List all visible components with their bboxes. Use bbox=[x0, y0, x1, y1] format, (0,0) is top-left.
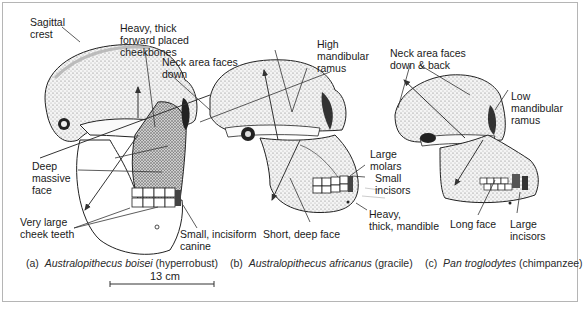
caption-b-descriptor: (gracile) bbox=[375, 257, 413, 269]
label-cheekbones: Heavy, thick forward placed cheekbones bbox=[120, 22, 189, 58]
label-sagittal-crest: Sagittal crest bbox=[30, 16, 65, 40]
caption-a: (a) Australopithecus boisei (hyperrobust… bbox=[26, 257, 218, 269]
caption-a-prefix: (a) bbox=[26, 257, 39, 269]
label-deep-massive-face: Deep massive face bbox=[32, 160, 71, 196]
label-short-deep-face: Short, deep face bbox=[263, 228, 340, 240]
caption-c: (c) Pan troglodytes (chimpanzee) bbox=[425, 257, 583, 269]
label-large-incisors: Large incisors bbox=[510, 218, 546, 242]
caption-c-descriptor: (chimpanzee) bbox=[519, 257, 583, 269]
label-high-mandibular-ramus: High mandibular ramus bbox=[317, 38, 369, 74]
caption-a-species: Australopithecus boisei bbox=[45, 257, 153, 269]
caption-a-descriptor: (hyperrobust) bbox=[156, 257, 218, 269]
caption-b-prefix: (b) bbox=[230, 257, 243, 269]
caption-c-prefix: (c) bbox=[425, 257, 437, 269]
label-small-incisors: Small incisors bbox=[375, 172, 411, 196]
label-very-large-cheek-teeth: Very large cheek teeth bbox=[20, 216, 74, 240]
label-incisiform-canine: Small, incisiform canine bbox=[180, 228, 256, 252]
label-heavy-thick-mandible: Heavy, thick, mandible bbox=[369, 208, 439, 232]
label-neck-area-down-back: Neck area faces down & back bbox=[390, 47, 466, 71]
caption-b: (b) Australopithecus africanus (gracile) bbox=[230, 257, 413, 269]
label-large-molars: Large molars bbox=[370, 148, 402, 172]
caption-c-species: Pan troglodytes bbox=[443, 257, 516, 269]
caption-b-species: Australopithecus africanus bbox=[249, 257, 372, 269]
skull-c-pan bbox=[395, 65, 538, 215]
label-neck-area-down: Neck area faces down bbox=[162, 56, 238, 80]
label-long-face: Long face bbox=[450, 218, 496, 230]
label-low-mandibular-ramus: Low mandibular ramus bbox=[511, 90, 563, 126]
scale-bar-label: 13 cm bbox=[150, 270, 180, 282]
